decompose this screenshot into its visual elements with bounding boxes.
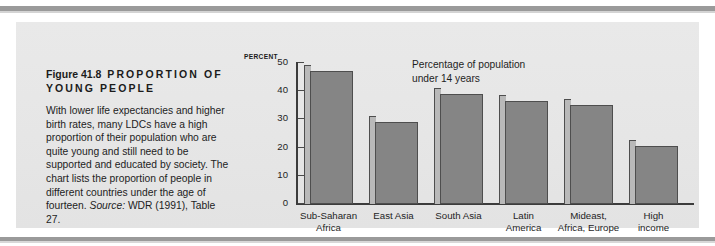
x-axis-label-1: Sub-SaharanAfrica xyxy=(295,210,362,235)
figure-panel: Figure 41.8 PROPORTION OF YOUNG PEOPLE W… xyxy=(16,22,699,228)
bar-1[interactable] xyxy=(304,65,354,204)
figure-number: Figure 41.8 xyxy=(46,68,101,80)
x-axis-label-line-2: Africa, Europe xyxy=(555,222,622,234)
y-tick-label-40: 40 xyxy=(256,84,288,95)
x-axis-label-line-2: income xyxy=(620,222,687,234)
x-axis-label-6: Highincome xyxy=(620,210,687,235)
x-axis-label-2: East Asia xyxy=(360,210,427,222)
x-axis-label-line-1: Latin xyxy=(490,210,557,222)
x-axis-label-line-1: High xyxy=(620,210,687,222)
x-axis-label-line-1: East Asia xyxy=(360,210,427,222)
x-axis-label-line-2: America xyxy=(490,222,557,234)
plot-area: 01020304050 Sub-SaharanAfricaEast AsiaSo… xyxy=(242,62,698,238)
bar-chart: PERCENT Percentage of population under 1… xyxy=(242,50,704,246)
top-decorative-rule-shadow xyxy=(0,11,715,13)
figure-caption: Figure 41.8 PROPORTION OF YOUNG PEOPLE W… xyxy=(46,68,231,226)
x-axis-label-line-1: Mideast, xyxy=(555,210,622,222)
figure-caption-title: Figure 41.8 PROPORTION OF YOUNG PEOPLE xyxy=(46,68,231,95)
bar-front-face xyxy=(570,105,613,204)
x-axis-label-5: Mideast,Africa, Europe xyxy=(555,210,622,235)
y-tick-label-0: 0 xyxy=(256,197,288,208)
bar-series xyxy=(298,62,694,204)
bar-4[interactable] xyxy=(499,95,549,204)
bar-front-face xyxy=(505,101,548,204)
x-axis-label-line-1: Sub-Saharan xyxy=(295,210,362,222)
bar-front-face xyxy=(440,94,483,204)
x-axis-label-line-2: Africa xyxy=(295,222,362,234)
x-axis-label-3: South Asia xyxy=(425,210,492,222)
y-tick-label-10: 10 xyxy=(256,169,288,180)
bar-front-face xyxy=(375,122,418,204)
x-axis-label-line-1: South Asia xyxy=(425,210,492,222)
caption-body-text: With lower life expectancies and higher … xyxy=(46,105,228,211)
caption-source-label: Source: xyxy=(90,200,126,211)
bar-front-face xyxy=(635,146,678,204)
bar-6[interactable] xyxy=(629,140,679,204)
figure-caption-body: With lower life expectancies and higher … xyxy=(46,104,231,226)
bar-2[interactable] xyxy=(369,116,419,204)
bar-3[interactable] xyxy=(434,88,484,204)
y-tick-label-20: 20 xyxy=(256,141,288,152)
y-tick-label-50: 50 xyxy=(256,56,288,67)
bar-front-face xyxy=(310,71,353,204)
y-tick-label-30: 30 xyxy=(256,112,288,123)
x-axis-label-4: LatinAmerica xyxy=(490,210,557,235)
bar-5[interactable] xyxy=(564,99,614,204)
